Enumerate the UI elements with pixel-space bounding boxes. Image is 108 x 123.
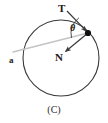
tangent-vector-label: T <box>58 3 65 14</box>
figure-caption: (C) <box>0 105 108 115</box>
normal-vector-label: N <box>55 52 63 63</box>
figure-container: T θ N a (C) <box>0 0 108 123</box>
point-marker <box>85 30 91 36</box>
acceleration-vector-label: a <box>9 56 14 65</box>
angle-theta-label: θ <box>70 23 75 33</box>
